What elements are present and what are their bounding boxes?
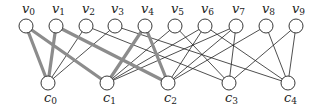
edge-v7-c3	[229, 26, 236, 83]
label-c2: c2	[164, 90, 177, 106]
edge-v8-c4	[266, 26, 288, 83]
node-v7	[229, 19, 243, 33]
node-v9	[289, 19, 303, 33]
thin-edges	[48, 26, 296, 83]
edge-v1-c0	[48, 26, 56, 83]
thick-edges	[26, 26, 168, 83]
label-c1: c1	[103, 90, 116, 106]
label-v6: v6	[201, 1, 214, 17]
edge-v9-c4	[288, 26, 296, 83]
node-v3	[108, 19, 122, 33]
edge-v6-c2	[168, 26, 205, 83]
label-v7: v7	[232, 1, 245, 17]
label-v1: v1	[52, 1, 65, 17]
label-v9: v9	[292, 1, 305, 17]
node-v6	[198, 19, 212, 33]
node-v5	[168, 19, 182, 33]
bipartite-graph: v0v1v2v3v4v5v6v7v8v9c0c1c2c3c4	[0, 0, 315, 109]
node-c3	[222, 76, 236, 90]
node-v0	[19, 19, 33, 33]
label-v3: v3	[111, 1, 124, 17]
node-v1	[49, 19, 63, 33]
node-v4	[138, 19, 152, 33]
label-v8: v8	[262, 1, 275, 17]
node-c1	[100, 76, 114, 90]
label-v4: v4	[141, 1, 154, 17]
label-c3: c3	[225, 90, 238, 106]
edge-v3-c0	[48, 26, 115, 83]
node-v8	[259, 19, 273, 33]
label-c0: c0	[44, 90, 57, 106]
label-v2: v2	[82, 1, 95, 17]
node-c4	[281, 76, 295, 90]
label-v5: v5	[171, 1, 184, 17]
label-c4: c4	[284, 90, 297, 106]
node-v2	[79, 19, 93, 33]
node-c2	[161, 76, 175, 90]
node-c0	[41, 76, 55, 90]
label-v0: v0	[22, 1, 35, 17]
